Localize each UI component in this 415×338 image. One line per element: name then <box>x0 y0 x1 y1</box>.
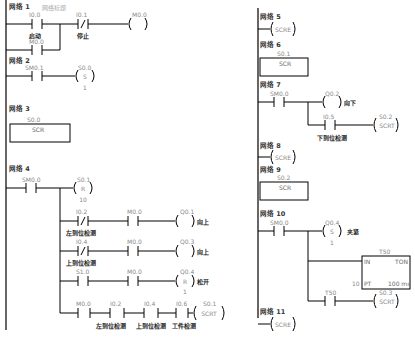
scr-address: S0.2 <box>277 174 290 181</box>
contact-comment: 下到位检测 <box>317 134 347 141</box>
contact-address: S1.0 <box>76 268 89 275</box>
contact-address: M0.0 <box>76 300 91 307</box>
network-9-label: 网络 9 <box>260 166 281 174</box>
timer-in-pin: IN <box>364 258 370 265</box>
contact-comment: 上到位检测 <box>66 259 96 266</box>
network-7-label: 网络 7 <box>260 81 281 89</box>
contact-comment: 左到位检测 <box>96 322 126 329</box>
contact-comment: 停止 <box>77 32 89 39</box>
scr-box-label: SCR <box>32 126 44 133</box>
contact-address: M0.0 <box>127 208 142 215</box>
contact-address: I0.4 <box>144 300 155 307</box>
coil-comment: 向上 <box>197 248 209 255</box>
contact-address: I0.2 <box>110 300 121 307</box>
contact-address: SM0.0 <box>270 219 289 226</box>
network-3-label: 网络 3 <box>9 105 30 113</box>
contact-address: M0.0 <box>127 268 142 275</box>
coil-comment: 向下 <box>344 99 356 106</box>
contact-address: SM0.1 <box>25 64 44 71</box>
coil-comment: 向上 <box>197 218 209 225</box>
coil-symbol: S <box>329 228 335 235</box>
contact-address: I0.2 <box>76 208 87 215</box>
scre-coil-label: SCRE <box>274 154 292 161</box>
network-1-label: 网络 1 <box>9 3 30 11</box>
coil-address: S0.1 <box>77 176 90 183</box>
coil-comment: 松开 <box>197 278 209 285</box>
coil-address: S0.3 <box>379 289 392 296</box>
timer-preset-value: 10 <box>352 280 360 287</box>
coil-count: 1 <box>329 239 335 246</box>
contact-address: SM0.0 <box>270 90 289 97</box>
scr-box-label: SCR <box>279 184 291 191</box>
coil-address: Q0.1 <box>180 208 194 215</box>
coil-address: Q0.3 <box>180 238 194 245</box>
network-1-title: 网络标题 <box>42 3 66 12</box>
contact-address: T50 <box>325 289 336 296</box>
coil-address: S0.1 <box>203 300 216 307</box>
ladder-wiring <box>0 0 415 338</box>
coil-symbol: S <box>82 73 88 80</box>
contact-address: I0.6 <box>176 300 187 307</box>
coil-symbol: R <box>182 278 188 285</box>
contact-address: SM0.0 <box>22 176 41 183</box>
network-5-label: 网络 5 <box>260 13 281 21</box>
network-8-label: 网络 8 <box>260 142 281 150</box>
timer-address: T50 <box>379 248 390 255</box>
timer-time-base: 100 ms <box>388 280 410 287</box>
contact-address: I0.0 <box>29 11 40 18</box>
network-10-label: 网络 10 <box>260 210 285 218</box>
timer-pt-pin: PT <box>364 280 371 287</box>
scrt-coil-label: SCRT <box>198 310 220 317</box>
scr-box-label: SCR <box>279 60 291 67</box>
coil-comment: 夹紧 <box>347 228 359 235</box>
network-6-label: 网络 6 <box>260 41 281 49</box>
scrt-coil-label: SCRT <box>377 122 397 129</box>
contact-comment: 工件检测 <box>172 322 196 329</box>
scre-coil-label: SCRE <box>274 321 292 328</box>
contact-address: I0.4 <box>76 238 87 245</box>
scr-address: S0.0 <box>27 116 40 123</box>
coil-address: Q0.4 <box>180 268 194 275</box>
scr-address: S0.1 <box>277 50 290 57</box>
coil-address: Q0.4 <box>325 219 339 226</box>
contact-address: I0.1 <box>76 11 87 18</box>
coil-symbol: R <box>80 185 86 192</box>
scrt-coil-label: SCRT <box>377 298 397 305</box>
contact-address: M0.0 <box>127 238 142 245</box>
coil-count: 1 <box>182 288 188 295</box>
timer-type: TON <box>395 258 408 265</box>
coil-count: 10 <box>78 196 88 203</box>
contact-comment: 左到位检测 <box>66 229 96 236</box>
coil-address: S0.0 <box>78 64 91 71</box>
coil-address: S0.2 <box>379 113 392 120</box>
network-4-label: 网络 4 <box>9 165 30 173</box>
contact-address: I0.5 <box>323 113 334 120</box>
coil-address: M0.0 <box>132 11 147 18</box>
coil-address: Q0.2 <box>325 90 339 97</box>
contact-address: M0.0 <box>29 38 44 45</box>
coil-count: 1 <box>82 84 88 91</box>
scre-coil-label: SCRE <box>274 26 292 33</box>
contact-comment: 上到位检测 <box>136 322 166 329</box>
network-11-label: 网络 11 <box>260 308 285 316</box>
